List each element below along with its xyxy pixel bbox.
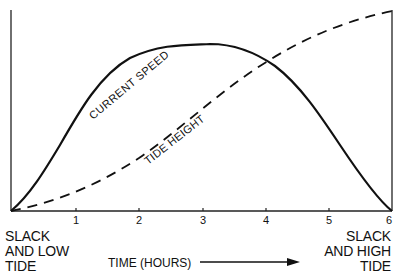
x-tick-label: 6	[382, 214, 396, 226]
right-note-line: SLACK	[324, 229, 391, 244]
tide-height-curve	[11, 11, 392, 211]
right-note-line: TIDE	[324, 259, 391, 274]
left-note-line: SLACK	[5, 229, 69, 244]
left-note-line: AND LOW	[5, 244, 69, 259]
x-axis-label: TIME (HOURS)	[108, 256, 191, 270]
x-tick-label: 3	[196, 214, 210, 226]
x-tick-label: 1	[69, 214, 83, 226]
current-speed-curve	[11, 44, 392, 211]
left-note-line: TIDE	[5, 259, 69, 274]
time-arrow-head	[287, 258, 300, 266]
left-note: SLACK AND LOW TIDE	[5, 229, 69, 274]
right-note: SLACK AND HIGH TIDE	[324, 229, 391, 274]
x-tick-label: 5	[322, 214, 336, 226]
x-tick-label: 4	[259, 214, 273, 226]
x-tick-label: 2	[132, 214, 146, 226]
tide-height-label: TIDE HEIGHT	[142, 112, 207, 166]
right-note-line: AND HIGH	[324, 244, 391, 259]
